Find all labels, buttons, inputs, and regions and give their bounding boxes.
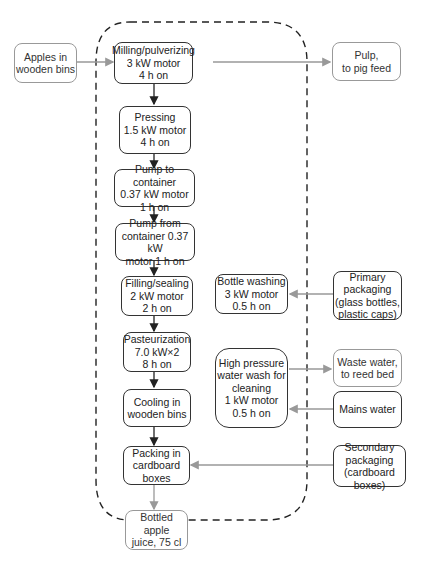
input-apples: Apples in wooden bins: [14, 43, 77, 83]
step-pressing: Pressing 1.5 kW motor 4 h on: [119, 106, 191, 154]
input-primary-packaging: Primary packaging (glass bottles, plasti…: [333, 271, 402, 320]
output-pulp: Pulp, to pig feed: [332, 42, 401, 81]
output-waste-water: Waste water, to reed bed: [333, 349, 402, 387]
step-bottle-washing: Bottle washing 3 kW motor 0.5 h on: [215, 274, 288, 314]
step-milling: Milling/pulverizing 3 kW motor 4 h on: [114, 42, 193, 84]
step-filling-sealing: Filling/sealing 2 kW motor 2 h on: [121, 276, 193, 316]
step-pump-to-container: Pump to container 0.37 kW motor 1 h on: [114, 169, 195, 207]
step-packing: Packing in cardboard boxes: [123, 446, 190, 485]
input-mains-water: Mains water: [333, 391, 402, 428]
step-cooling: Cooling in wooden bins: [123, 389, 191, 427]
input-secondary-packaging: Secondary packaging (cardboard boxes): [333, 445, 406, 487]
system-boundary: [96, 22, 307, 520]
step-pasteurization: Pasteurization 7.0 kW×2 8 h on: [123, 332, 191, 372]
output-bottled-juice: Bottled apple juice, 75 cl: [125, 510, 188, 550]
step-pump-from-container: Pump from container 0.37 kW motor 1 h on: [115, 223, 195, 261]
step-water-wash: High pressure water wash for cleaning 1 …: [215, 348, 288, 428]
